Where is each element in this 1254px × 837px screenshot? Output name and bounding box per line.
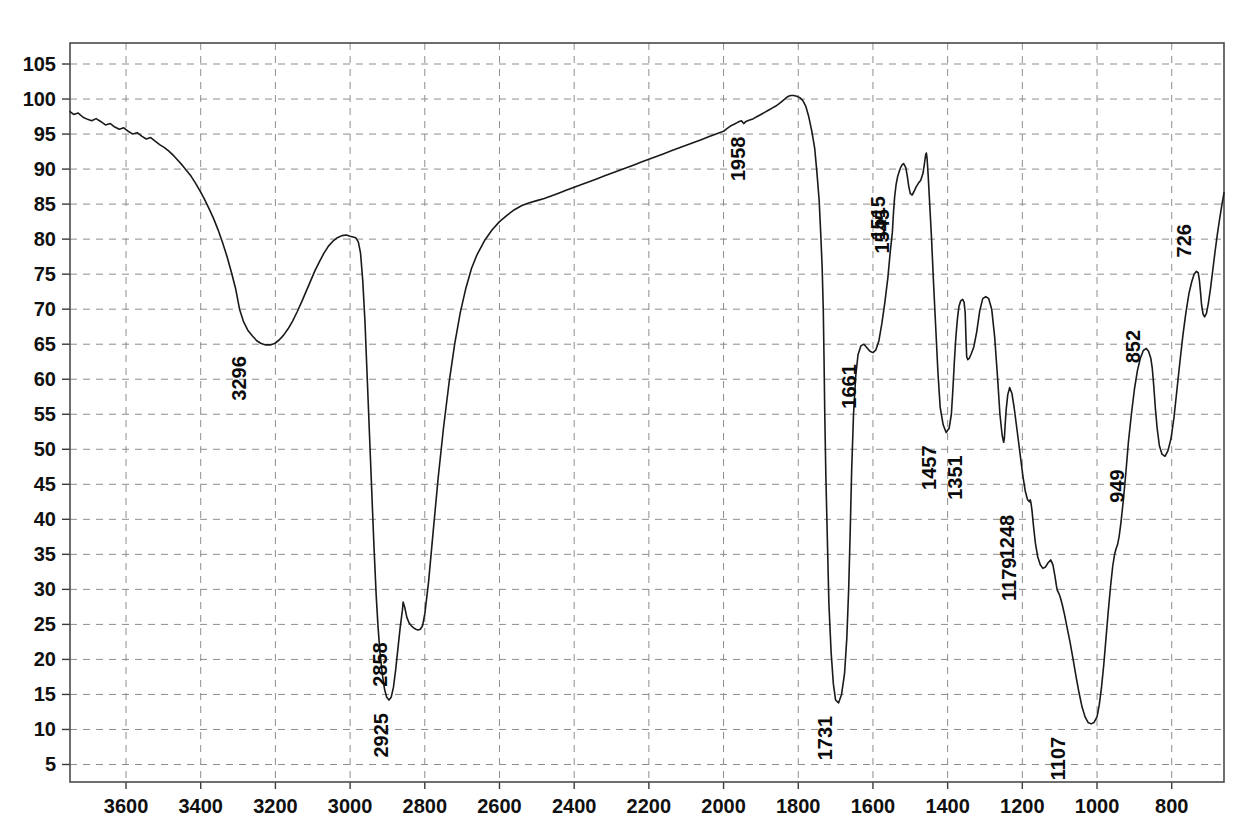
ir-spectrum-chart: 3600340032003000280026002400220020001800…: [0, 0, 1254, 837]
ytick-label: 60: [34, 368, 56, 390]
peak-label-1351: 1351: [944, 455, 966, 500]
peak-label-2925: 2925: [370, 713, 392, 758]
ytick-label: 45: [34, 473, 56, 495]
xtick-label: 3000: [328, 795, 373, 817]
peak-label-852: 852: [1122, 330, 1144, 363]
xtick-label: 1600: [851, 795, 896, 817]
peak-label-1958: 1958: [727, 137, 749, 182]
xtick-label: 2600: [477, 795, 522, 817]
ytick-label: 90: [34, 158, 56, 180]
ytick-label: 105: [23, 53, 56, 75]
ytick-label: 70: [34, 298, 56, 320]
peak-label-1107: 1107: [1047, 737, 1069, 780]
ytick-label: 75: [34, 263, 56, 285]
ytick-label: 95: [34, 123, 56, 145]
xtick-label: 2800: [403, 795, 448, 817]
xtick-label: 1800: [776, 795, 821, 817]
xtick-label: 2000: [701, 795, 746, 817]
peak-label-726: 726: [1173, 224, 1195, 257]
ytick-label: 55: [34, 403, 56, 425]
peak-label-3296: 3296: [228, 356, 250, 401]
xtick-label: 3400: [178, 795, 223, 817]
xtick-label: 3600: [104, 795, 149, 817]
peak-label-1731: 1731: [814, 716, 836, 761]
spectrum-trace: [70, 96, 1224, 724]
peak-label-2858: 2858: [369, 642, 391, 687]
xtick-label: 800: [1155, 795, 1188, 817]
ytick-label: 25: [34, 613, 56, 635]
peak-label-1248: 1248: [996, 515, 1018, 560]
peak-label-1515: 1515: [867, 196, 889, 241]
ytick-label: 35: [34, 543, 56, 565]
plot-frame: [70, 43, 1224, 782]
ytick-label: 10: [34, 718, 56, 740]
peak-label-949: 949: [1106, 469, 1128, 502]
xtick-label: 2200: [627, 795, 672, 817]
xtick-label: 1000: [1075, 795, 1120, 817]
ytick-label: 100: [23, 88, 56, 110]
ytick-label: 30: [34, 578, 56, 600]
xtick-label: 3200: [253, 795, 298, 817]
ytick-label: 65: [34, 333, 56, 355]
peak-label-1457: 1457: [918, 445, 940, 490]
xtick-label: 1200: [1000, 795, 1045, 817]
ytick-label: 50: [34, 438, 56, 460]
peak-label-1661: 1661: [838, 364, 860, 409]
xtick-label: 2400: [552, 795, 597, 817]
ytick-label: 20: [34, 648, 56, 670]
spectrum-plot-area: 3600340032003000280026002400220020001800…: [0, 0, 1254, 837]
ytick-label: 80: [34, 228, 56, 250]
ytick-label: 85: [34, 193, 56, 215]
peak-label-1179: 1179: [998, 558, 1020, 601]
ytick-label: 5: [45, 753, 56, 775]
ytick-label: 15: [34, 683, 56, 705]
ytick-label: 40: [34, 508, 56, 530]
xtick-label: 1400: [925, 795, 970, 817]
